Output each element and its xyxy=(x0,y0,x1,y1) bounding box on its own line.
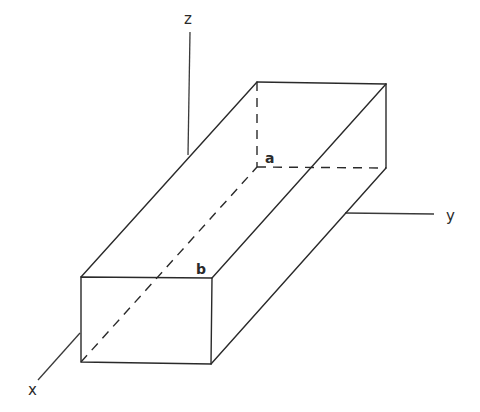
x-axis xyxy=(38,333,80,380)
y-axis-label: y xyxy=(446,207,455,225)
x-axis-label: x xyxy=(28,381,37,399)
bottom-left-hidden-depth-edge xyxy=(81,167,257,362)
back-bottom-hidden-edge xyxy=(257,167,386,168)
prism-diagram: z y x a b xyxy=(0,0,480,412)
y-axis xyxy=(345,213,434,214)
point-a-label: a xyxy=(265,150,274,166)
z-axis-label: z xyxy=(184,10,192,28)
top-left-depth-edge xyxy=(81,82,257,277)
diagram-canvas: z y x a b xyxy=(0,0,480,412)
z-axis xyxy=(188,32,190,155)
bottom-right-depth-edge xyxy=(211,168,386,364)
point-b-label: b xyxy=(196,261,206,277)
back-top-edge xyxy=(257,82,386,84)
top-right-depth-edge xyxy=(212,84,386,278)
